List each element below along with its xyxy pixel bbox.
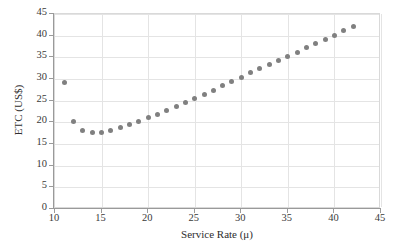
gridline-vertical bbox=[195, 14, 196, 207]
data-point bbox=[202, 92, 207, 97]
y-tick-mark bbox=[49, 78, 53, 79]
data-point bbox=[62, 80, 67, 85]
x-axis-line bbox=[53, 208, 381, 209]
gridline-vertical bbox=[102, 14, 103, 207]
data-point bbox=[295, 50, 300, 55]
y-tick-label: 45 bbox=[37, 7, 48, 18]
data-point bbox=[99, 130, 104, 135]
gridline-vertical bbox=[241, 14, 242, 207]
x-tick-label: 30 bbox=[235, 212, 246, 223]
data-point bbox=[257, 66, 262, 71]
data-point bbox=[211, 88, 216, 93]
y-tick-mark bbox=[49, 56, 53, 57]
gridline-vertical bbox=[381, 14, 382, 207]
y-axis-line bbox=[53, 13, 54, 209]
data-point bbox=[313, 41, 318, 46]
y-tick-label: 0 bbox=[42, 202, 47, 213]
data-point bbox=[146, 115, 151, 120]
data-point bbox=[90, 130, 95, 135]
x-tick-label: 10 bbox=[49, 212, 60, 223]
gridline-horizontal bbox=[55, 122, 379, 123]
gridline-horizontal bbox=[55, 101, 379, 102]
y-tick-mark bbox=[49, 143, 53, 144]
y-tick-label: 15 bbox=[37, 137, 48, 148]
y-tick-mark bbox=[49, 165, 53, 166]
data-point bbox=[323, 37, 328, 42]
y-tick-mark bbox=[49, 186, 53, 187]
gridline-vertical bbox=[288, 14, 289, 207]
data-point bbox=[127, 122, 132, 127]
data-point bbox=[71, 119, 76, 124]
x-tick-label: 25 bbox=[188, 212, 199, 223]
gridline-vertical bbox=[334, 14, 335, 207]
x-tick-label: 35 bbox=[282, 212, 293, 223]
y-tick-mark bbox=[49, 208, 53, 209]
data-point bbox=[174, 104, 179, 109]
gridline-horizontal bbox=[55, 36, 379, 37]
data-point bbox=[248, 70, 253, 75]
data-point bbox=[341, 28, 346, 33]
y-tick-label: 25 bbox=[37, 94, 48, 105]
data-point bbox=[80, 128, 85, 133]
gridline-vertical bbox=[148, 14, 149, 207]
data-point bbox=[108, 128, 113, 133]
gridline-horizontal bbox=[55, 187, 379, 188]
data-point bbox=[267, 62, 272, 67]
data-point bbox=[229, 79, 234, 84]
y-tick-label: 30 bbox=[37, 72, 48, 83]
data-point bbox=[183, 100, 188, 105]
y-tick-mark bbox=[49, 13, 53, 14]
x-axis-title: Service Rate (μ) bbox=[54, 228, 380, 240]
x-tick-label: 15 bbox=[95, 212, 106, 223]
data-point bbox=[155, 112, 160, 117]
gridline-horizontal bbox=[55, 79, 379, 80]
y-tick-label: 35 bbox=[37, 50, 48, 61]
y-tick-label: 20 bbox=[37, 115, 48, 126]
x-tick-label: 45 bbox=[375, 212, 386, 223]
scatter-chart: 051015202530354045 1015202530354045 Serv… bbox=[0, 0, 400, 248]
plot-area bbox=[54, 13, 380, 208]
gridline-horizontal bbox=[55, 144, 379, 145]
y-tick-mark bbox=[49, 100, 53, 101]
y-axis-title: ETC (US$) bbox=[12, 55, 24, 165]
y-tick-label: 40 bbox=[37, 29, 48, 40]
y-tick-mark bbox=[49, 35, 53, 36]
data-point bbox=[304, 45, 309, 50]
x-tick-label: 40 bbox=[328, 212, 339, 223]
y-tick-label: 10 bbox=[37, 159, 48, 170]
gridline-horizontal bbox=[55, 57, 379, 58]
y-tick-label: 5 bbox=[42, 180, 47, 191]
data-point bbox=[118, 125, 123, 130]
gridline-horizontal bbox=[55, 14, 379, 15]
data-point bbox=[239, 75, 244, 80]
data-point bbox=[332, 33, 337, 38]
data-point bbox=[164, 108, 169, 113]
gridline-horizontal bbox=[55, 166, 379, 167]
data-point bbox=[351, 24, 356, 29]
x-tick-label: 20 bbox=[142, 212, 153, 223]
data-point bbox=[276, 58, 281, 63]
y-tick-mark bbox=[49, 121, 53, 122]
data-point bbox=[220, 83, 225, 88]
